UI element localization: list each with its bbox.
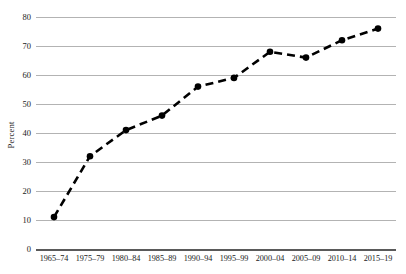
x-axis-tick-label: 2005–09 (292, 255, 321, 263)
data-point-marker (375, 25, 382, 32)
data-point-marker (87, 153, 94, 160)
x-axis-tick-labels: 1965–741975–791980–841985–891990–941995–… (36, 253, 396, 271)
y-axis-tick-label: 60 (10, 71, 36, 80)
data-point-marker (231, 75, 238, 82)
data-point-marker (123, 127, 130, 134)
x-axis-tick-label: 1975–79 (76, 255, 105, 263)
x-axis-tick-label: 1985–89 (148, 255, 177, 263)
x-axis-tick-label: 1980–84 (112, 255, 141, 263)
y-axis-tick-label: 50 (10, 100, 36, 109)
data-point-marker (267, 49, 274, 56)
y-axis-tick-label: 80 (10, 13, 36, 22)
data-point-marker (195, 83, 202, 90)
x-axis-tick-label: 1995–99 (220, 255, 249, 263)
data-point-marker (51, 214, 58, 221)
y-axis-tick-label: 20 (10, 187, 36, 196)
x-axis-tick-label: 2000–04 (256, 255, 285, 263)
series-line-percent (36, 17, 396, 249)
y-axis-tick-label: 10 (10, 216, 36, 225)
y-axis-tick-label: 40 (10, 129, 36, 138)
series-polyline (54, 29, 378, 218)
line-chart: Percent 01020304050607080 1965–741975–79… (0, 0, 406, 274)
y-axis-tick-label: 30 (10, 158, 36, 167)
data-point-marker (303, 54, 310, 61)
y-axis-tick-label: 70 (10, 42, 36, 51)
x-axis-tick-label: 2015–19 (364, 255, 393, 263)
x-axis-line (36, 249, 396, 251)
data-point-marker (339, 37, 346, 44)
y-axis-tick-labels: 01020304050607080 (10, 0, 36, 274)
data-point-marker (159, 112, 166, 119)
y-axis-tick-label: 0 (10, 245, 36, 254)
plot-area (36, 17, 396, 249)
x-axis-tick-label: 1990–94 (184, 255, 213, 263)
x-axis-tick-label: 2010–14 (328, 255, 357, 263)
x-axis-tick-label: 1965–74 (40, 255, 69, 263)
